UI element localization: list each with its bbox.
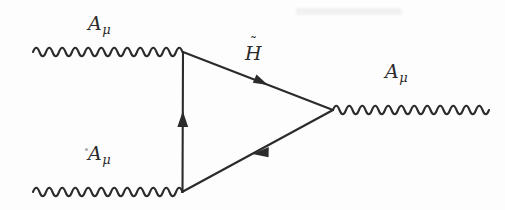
incoming-photon-bottom-wave — [33, 188, 183, 196]
label-photon-out-subscript: μ — [399, 70, 407, 85]
label-photon-out-base: A — [385, 60, 399, 82]
incoming-photon-top-wave — [33, 48, 183, 56]
higgsino-vertical-arrowhead — [177, 111, 188, 127]
label-higgsino: ˜H — [245, 44, 262, 63]
outgoing-photon-wave — [333, 106, 489, 114]
label-photon-out: Aμ — [385, 62, 408, 84]
label-higgsino-base-wrap: ˜H — [245, 44, 262, 63]
tilde-accent-icon: ˜ — [250, 36, 257, 50]
label-photon-in-top-base: A — [88, 12, 102, 34]
higgsino-upper-arrowhead — [253, 75, 268, 86]
label-photon-in-bottom: Aμ — [88, 144, 111, 166]
higgsino-lower-line — [182, 110, 333, 192]
feynman-diagram-figure: Aμ Aμ ˜H Aμ — [0, 0, 505, 210]
label-photon-in-top-subscript: μ — [102, 22, 110, 37]
label-photon-in-top: Aμ — [88, 14, 111, 36]
label-photon-in-bottom-base: A — [88, 142, 102, 164]
label-photon-in-bottom-subscript: μ — [102, 152, 110, 167]
diagram-canvas — [0, 0, 505, 210]
